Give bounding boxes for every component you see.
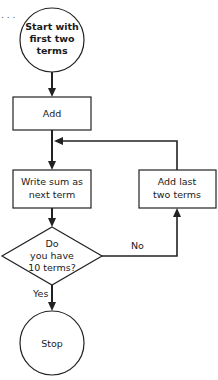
node-add: Add — [13, 97, 91, 130]
arrowhead-icon — [54, 137, 63, 145]
arrowhead-icon — [48, 88, 56, 97]
edge-add-last-to-write-sum — [54, 137, 177, 170]
node-decision: Do you have 10 terms? — [2, 227, 102, 285]
edge-label-no: No — [131, 240, 144, 251]
edge-decision-to-stop: Yes — [32, 285, 56, 311]
edge-add-to-write-sum — [48, 130, 56, 170]
add-label: Add — [43, 108, 61, 119]
start-label-line-1: Start with — [25, 21, 79, 32]
decision-label-line-3: 10 terms? — [28, 262, 76, 273]
flowchart-diagram: . . . No Yes Start with first two terms — [0, 0, 218, 380]
node-write-sum: Write sum as next term — [13, 170, 91, 208]
edge-start-to-add — [48, 72, 56, 97]
node-add-last: Add last two terms — [139, 170, 216, 208]
leading-ellipsis: . . . — [1, 10, 15, 20]
node-stop: Stop — [20, 311, 84, 375]
stop-label: Stop — [41, 338, 63, 349]
write-sum-label-line-1: Write sum as — [21, 176, 83, 187]
edge-label-yes: Yes — [32, 288, 48, 299]
arrowhead-icon — [48, 218, 56, 227]
node-start: Start with first two terms — [20, 8, 84, 72]
arrowhead-icon — [173, 208, 181, 217]
start-label-line-2: first two — [29, 33, 75, 44]
edge-write-sum-to-decision — [48, 208, 56, 227]
add-last-label-line-1: Add last — [158, 176, 197, 187]
arrowhead-icon — [48, 161, 56, 170]
write-sum-label-line-2: next term — [29, 189, 76, 200]
start-label-line-3: terms — [36, 45, 68, 56]
edge-decision-to-add-last: No — [102, 208, 181, 256]
arrowhead-icon — [48, 302, 56, 311]
decision-label-line-2: you have — [30, 250, 74, 261]
add-last-label-line-2: two terms — [153, 189, 201, 200]
decision-label-line-1: Do — [45, 238, 58, 249]
